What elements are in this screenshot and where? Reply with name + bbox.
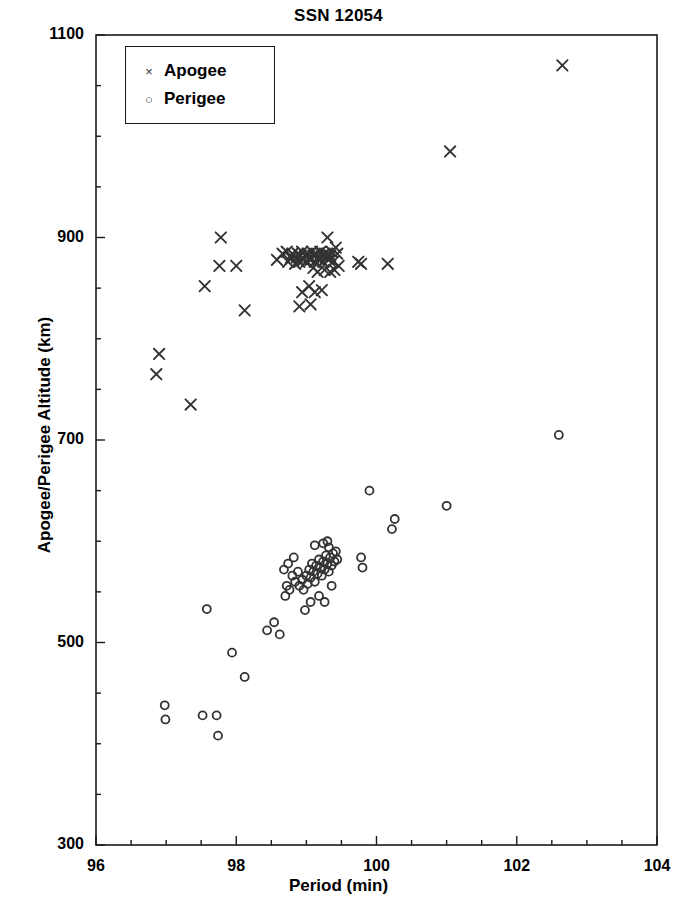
x-tick-label: 102 [482,857,552,875]
plot-frame [96,35,657,845]
y-tick-label: 300 [14,835,84,853]
x-tick-label: 98 [201,857,271,875]
y-tick-label: 700 [14,430,84,448]
legend: × Apogee ○ Perigee [125,46,275,124]
scatter-plot-figure: SSN 12054 3005007009001100 9698100102104… [0,0,677,908]
x-axis-title-wrapper: Period (min) [0,876,677,896]
x-axis-title: Period (min) [289,876,388,895]
axis-ticks [96,35,657,845]
y-tick-label: 1100 [14,25,84,43]
perigee-marker-icon: ○ [138,93,160,106]
x-tick-label: 100 [342,857,412,875]
x-tick-label: 96 [61,857,131,875]
legend-label-perigee: Perigee [164,89,225,109]
legend-item-apogee: × Apogee [126,57,274,85]
plot-canvas [0,0,677,908]
legend-label-apogee: Apogee [164,61,226,81]
x-tick-label: 104 [622,857,677,875]
series-perigee-markers [161,431,563,740]
apogee-marker-icon: × [138,65,160,78]
legend-item-perigee: ○ Perigee [126,85,274,113]
y-tick-label: 500 [14,633,84,651]
y-tick-label: 900 [14,228,84,246]
